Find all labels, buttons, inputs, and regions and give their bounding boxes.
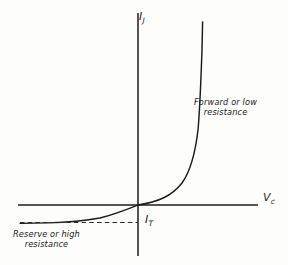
reverse-bias-curve [20, 205, 138, 223]
saturation-current-label: IT [145, 214, 153, 229]
forward-annotation-line2: resistance [204, 107, 248, 117]
reverse-annotation-line1: Reserve or high [13, 229, 80, 239]
x-axis-label: Vc [263, 192, 275, 207]
forward-annotation-line1: Forward or low [194, 97, 257, 107]
diode-characteristic-plot [0, 0, 288, 265]
forward-bias-curve [138, 22, 203, 205]
y-axis-label: IJ [139, 11, 145, 26]
forward-region-annotation: Forward or lowresistance [194, 98, 257, 117]
reverse-annotation-line2: resistance [25, 239, 69, 249]
reverse-region-annotation: Reserve or highresistance [13, 230, 80, 249]
figure-canvas: IJ Vc IT Forward or lowresistance Reserv… [0, 0, 288, 265]
